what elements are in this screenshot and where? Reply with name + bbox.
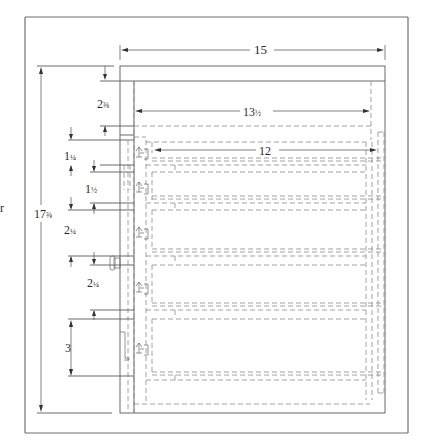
label-overall-width: 15 [254, 42, 267, 57]
hidden-left-stile [124, 137, 152, 413]
label-inner-width: 13½ [243, 105, 261, 119]
stray-mark: r [0, 201, 4, 215]
hidden-inner-box [134, 81, 384, 413]
drawer-5 [146, 319, 382, 380]
drawer-outlines [146, 142, 382, 380]
drawer-4 [146, 265, 382, 319]
slide-hardware [110, 147, 148, 360]
cabinet-elevation-drawing: 15 13½ 12 17⅜ 2⅜ 1¼ [0, 0, 434, 442]
label-drawer-4: 2¼ [87, 276, 99, 290]
label-drawer-3: 2¼ [64, 223, 76, 237]
label-drawer-1: 1¼ [64, 149, 76, 163]
label-drawer-width: 12 [259, 144, 271, 158]
label-overall-height: 17⅜ [34, 207, 52, 221]
drawer-2 [146, 172, 382, 210]
dim-overall-height [39, 67, 43, 412]
drawer-3 [146, 210, 382, 265]
label-drawer-2: 1½ [85, 182, 97, 196]
label-drawer-5: 3 [65, 341, 71, 355]
dim-overall-width [120, 45, 385, 60]
label-top-rail: 2⅜ [97, 97, 109, 111]
drawer-dividers [37, 66, 134, 413]
knob-icon [110, 256, 120, 270]
